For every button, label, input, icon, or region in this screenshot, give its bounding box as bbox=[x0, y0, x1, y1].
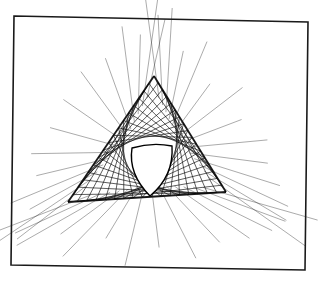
string-art-figure bbox=[0, 0, 320, 286]
frame-border bbox=[11, 16, 308, 270]
outer-rays bbox=[0, 0, 318, 266]
